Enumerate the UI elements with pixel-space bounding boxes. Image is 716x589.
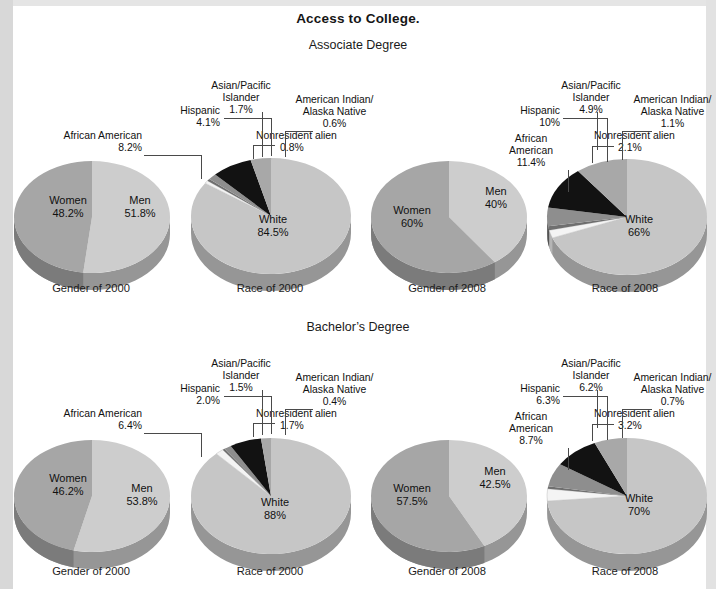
leader-line — [253, 145, 254, 159]
callout-amind-race2000-bach: American Indian/Alaska Native0.4% — [287, 372, 382, 409]
pie-caption-race2000-assoc: Race of 2000 — [185, 282, 355, 294]
slice-label-white-race2000-assoc: White84.5% — [238, 213, 308, 238]
leader-line — [144, 155, 202, 156]
leader-line — [271, 396, 272, 434]
chart-page: Access to College. Associate Degree Bach… — [0, 0, 716, 589]
slice-label-white-race2008-assoc: White66% — [606, 213, 672, 238]
slice-label-white-race2008-bach: White70% — [606, 492, 672, 517]
leader-line — [262, 390, 263, 435]
slice-label-men-gender2008-assoc: Men40% — [463, 185, 529, 210]
leader-line — [224, 396, 272, 397]
pie-caption-race2000-bach: Race of 2000 — [185, 565, 355, 577]
callout-hispanic-race2008-bach: Hispanic6.3% — [500, 383, 560, 407]
callout-african-american-race2000-bach: African American6.4% — [27, 408, 142, 432]
callout-hispanic-race2008-assoc: Hispanic10% — [500, 105, 560, 129]
leader-line — [607, 396, 608, 440]
leader-line — [201, 433, 202, 457]
leader-line — [592, 146, 593, 163]
leader-line — [253, 423, 254, 437]
slice-label-women-gender2008-bach: Women57.5% — [372, 482, 452, 507]
slice-label-men-gender2008-bach: Men42.5% — [460, 465, 530, 490]
leader-line — [622, 131, 652, 132]
leader-line — [568, 170, 569, 192]
leader-line — [563, 396, 608, 397]
callout-nonresident-race2008-assoc: Nonresident alien2.1% — [594, 130, 704, 154]
leader-line — [622, 409, 652, 410]
callout-nonresident-race2000-assoc: Nonresident alien0.8% — [256, 130, 366, 154]
leader-line — [285, 409, 313, 410]
pie-caption-gender2008-bach: Gender of 2008 — [362, 565, 532, 577]
leader-line — [144, 433, 202, 434]
pie-caption-gender2000-bach: Gender of 2000 — [6, 565, 176, 577]
leader-line — [592, 146, 614, 147]
pie-chart — [14, 161, 170, 290]
callout-nonresident-race2000-bach: Nonresident alien1.7% — [256, 408, 366, 432]
callout-african-american-race2008-bach: AfricanAmerican8.7% — [496, 411, 566, 448]
pie-caption-race2008-assoc: Race of 2008 — [540, 282, 710, 294]
callout-amind-race2008-assoc: American Indian/Alaska Native1.1% — [625, 94, 716, 131]
leader-line — [285, 409, 286, 435]
leader-line — [285, 131, 313, 132]
slice-label-white-race2000-bach: White88% — [240, 496, 310, 521]
leader-line — [568, 448, 569, 470]
slice-label-women-gender2000-assoc: Women48.2% — [28, 194, 108, 219]
callout-nonresident-race2008-bach: Nonresident alien3.2% — [594, 408, 704, 432]
leader-line — [597, 390, 598, 428]
callout-asian-a-race2008-assoc: Asian/PacificIslander4.9% — [548, 80, 634, 117]
leader-line — [253, 423, 275, 424]
slice-label-women-gender2008-assoc: Women60% — [372, 204, 452, 229]
slice-label-men-gender2000-bach: Men53.8% — [107, 482, 177, 507]
leader-line — [201, 155, 202, 179]
slice-label-men-gender2000-assoc: Men51.8% — [105, 194, 175, 219]
callout-asian-a-race2008-bach: Asian/PacificIslander6.2% — [548, 358, 634, 395]
leader-line — [592, 424, 593, 441]
leader-line — [622, 131, 623, 160]
callout-amind-race2000-assoc: American Indian/Alaska Native0.6% — [287, 94, 382, 131]
leader-line — [622, 409, 623, 438]
leader-line — [592, 424, 614, 425]
leader-line — [224, 118, 272, 119]
leader-line — [285, 131, 286, 157]
leader-line — [253, 145, 275, 146]
leader-line — [262, 112, 263, 157]
pie-caption-gender2000-assoc: Gender of 2000 — [6, 282, 176, 294]
callout-african-american-race2008-assoc: AfricanAmerican11.4% — [496, 133, 566, 170]
leader-line — [563, 118, 608, 119]
slice-label-women-gender2000-bach: Women46.2% — [28, 472, 108, 497]
callout-amind-race2008-bach: American Indian/Alaska Native0.7% — [625, 372, 716, 409]
callout-african-american-race2000-assoc: African American8.2% — [27, 130, 142, 154]
callout-hispanic-race2000-bach: Hispanic2.0% — [160, 383, 220, 407]
callout-hispanic-race2000-assoc: Hispanic4.1% — [160, 105, 220, 129]
leader-line — [607, 118, 608, 162]
leader-line — [597, 112, 598, 150]
pie-caption-gender2008-assoc: Gender of 2008 — [362, 282, 532, 294]
leader-line — [271, 118, 272, 156]
pie-caption-race2008-bach: Race of 2008 — [540, 565, 710, 577]
